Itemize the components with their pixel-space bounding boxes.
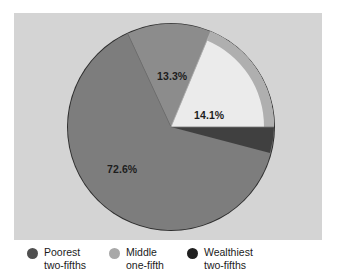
- legend-label-poorest-line2: two-fifths: [44, 259, 86, 272]
- legend-item-wealthiest-two-fifths[interactable]: Wealthiest two-fifths: [187, 246, 253, 271]
- legend-label-middle-line2: one-fifth: [126, 259, 164, 272]
- legend-item-poorest-two-fifths[interactable]: Poorest two-fifths: [27, 246, 86, 271]
- slice-label-poorest-two-fifths: 72.6%: [107, 163, 137, 175]
- legend-label-wealthiest-line1: Wealthiest: [204, 246, 253, 259]
- pie-chart-svg: [14, 13, 322, 240]
- legend-label-wealthiest: Wealthiest two-fifths: [204, 246, 253, 271]
- legend-label-wealthiest-line2: two-fifths: [204, 259, 253, 272]
- legend-item-middle-one-fifth[interactable]: Middle one-fifth: [109, 246, 164, 271]
- slice-label-middle-one-fifth: 13.3%: [157, 70, 187, 82]
- pie-chart: [14, 13, 322, 240]
- legend-label-poorest-line1: Poorest: [44, 246, 86, 259]
- chart-panel: 13.3% 14.1% 72.6%: [14, 13, 322, 240]
- legend-label-poorest: Poorest two-fifths: [44, 246, 86, 271]
- legend-swatch-icon-poorest: [27, 248, 38, 259]
- legend-swatch-icon-wealthiest: [187, 248, 198, 259]
- slice-label-wealthiest-two-fifths: 14.1%: [194, 109, 224, 121]
- legend-swatch-icon-middle: [109, 248, 120, 259]
- legend-label-middle-line1: Middle: [126, 246, 164, 259]
- legend-label-middle: Middle one-fifth: [126, 246, 164, 271]
- chart-legend: Poorest two-fifths Middle one-fifth Weal…: [0, 246, 341, 273]
